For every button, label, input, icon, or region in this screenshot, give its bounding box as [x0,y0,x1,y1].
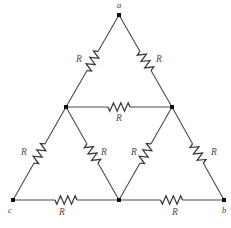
wire-segment [13,163,34,200]
node-dot-m_bottom [117,198,121,202]
resistor-label: R [210,147,217,157]
wire-segment [119,163,140,200]
resistor-symbol [137,51,153,70]
wire-segment [151,107,172,144]
wire-segment [66,107,87,144]
node-dot-c [11,198,15,202]
resistor-label: R [130,147,137,157]
resistor-label: R [100,147,107,157]
node-label-a: a [117,0,121,10]
wire-segment [98,163,119,200]
resistor-zigzag-layer [33,51,206,204]
wire-segment [151,71,172,107]
node-label-c: c [8,205,12,215]
resistor-label: R [20,147,27,157]
resistor-symbol [161,196,183,204]
resistor-symbol [108,103,130,111]
wire-segment [45,107,66,144]
resistor-symbol [139,143,152,163]
circuit-diagram: RRRRRRRRRabc [0,0,231,228]
resistor-label: R [75,54,82,64]
resistor-symbol [86,51,99,71]
wire-segment [66,71,87,107]
wire-segment [98,15,119,51]
resistor-label: R [171,207,178,217]
resistor-label: R [115,113,122,123]
resistor-symbol [33,143,46,163]
wire-segment [119,15,140,51]
node-dot-m_right [170,105,174,109]
circuit-svg: RRRRRRRRRabc [0,0,231,228]
wire-segment [203,163,224,200]
wire-segment [172,107,193,144]
resistor-label: R [155,54,162,64]
resistor-symbol [84,144,100,163]
node-dot-m_left [64,105,68,109]
resistor-label: R [58,207,65,217]
node-dot-b [222,198,226,202]
labels-layer: RRRRRRRRRabc [8,0,226,217]
resistor-symbol [190,144,206,163]
resistor-symbol [55,196,77,204]
node-label-b: b [222,205,226,215]
node-dot-a [117,13,121,17]
